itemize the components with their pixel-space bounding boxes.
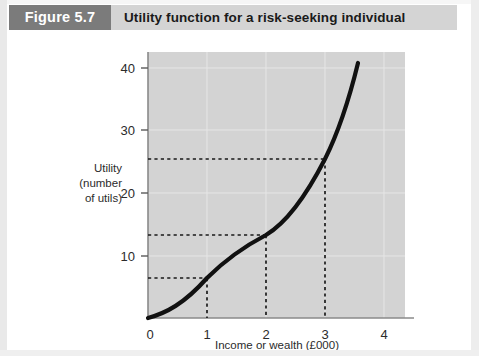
figure-title: Utility function for a risk-seeking indi…	[124, 5, 405, 30]
x-axis-title: Income or wealth (£000)	[215, 339, 339, 350]
y-axis-title: Utility (number of utils)	[79, 162, 122, 204]
frame-edge-left	[0, 0, 7, 356]
y-axis-title-line-1: Utility	[94, 162, 122, 174]
y-tick-30: 30	[121, 123, 135, 138]
figure-container: Figure 5.7 Utility function for a risk-s…	[0, 0, 479, 356]
y-tick-40: 40	[121, 61, 135, 76]
chart-plot-container: 40 30 20 10 0 1 2 3 4 Income or wealth (…	[9, 32, 457, 350]
x-tick-1: 1	[203, 327, 210, 342]
y-axis-title-line-3: of utils)	[85, 192, 122, 204]
figure-number-label: Figure 5.7	[25, 10, 96, 25]
utility-function-chart: 40 30 20 10 0 1 2 3 4 Income or wealth (…	[9, 32, 457, 350]
frame-edge-bottom	[0, 350, 479, 356]
y-axis-ticks	[141, 68, 148, 256]
frame-edge-top	[0, 0, 479, 4]
y-tick-0: 0	[146, 327, 153, 342]
x-tick-4: 4	[380, 327, 387, 342]
figure-number-badge: Figure 5.7	[9, 5, 111, 30]
y-tick-20: 20	[121, 186, 135, 201]
frame-edge-right	[471, 0, 479, 356]
y-tick-10: 10	[121, 249, 135, 264]
y-axis-title-line-2: (number	[79, 177, 122, 189]
